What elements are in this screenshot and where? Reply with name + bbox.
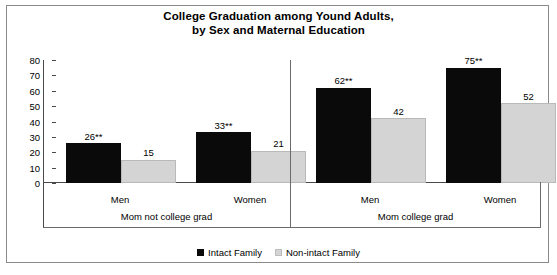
legend-item-non-intact-family[interactable]: Non-intact Family — [275, 247, 360, 258]
black-square-icon — [197, 249, 204, 256]
chart-title-line2: by Sex and Maternal Education — [0, 23, 557, 37]
bar-label-nonintact-women-mom-grad: 52 — [523, 91, 534, 102]
bar-nonintact-women-mom-grad[interactable] — [501, 103, 556, 183]
legend-label-non-intact-family: Non-intact Family — [286, 247, 360, 258]
plot-area: 26** 15 33** 21 62** 42 75** 52 — [44, 60, 541, 183]
bar-intact-men-mom-not-grad[interactable] — [66, 143, 121, 183]
y-tick-80: 80 — [12, 55, 40, 66]
category-label-men-mom-grad: Men — [361, 194, 379, 205]
bar-label-intact-men-mom-not-grad: 26** — [85, 131, 103, 142]
category-label-women-mom-not-grad: Women — [234, 194, 267, 205]
gray-square-icon — [275, 249, 282, 256]
y-tick-10: 10 — [12, 162, 40, 173]
xlabel-box-mom-college-grad: Men Women Mom college grad — [291, 182, 541, 228]
y-tick-60: 60 — [12, 85, 40, 96]
chart-screenshot: College Graduation among Yound Adults, b… — [0, 0, 557, 275]
xlabel-box-mom-not-college-grad: Men Women Mom not college grad — [43, 182, 291, 228]
bar-label-nonintact-women-mom-not-grad: 21 — [273, 138, 284, 149]
bar-label-intact-women-mom-grad: 75** — [465, 55, 483, 66]
y-tick-0: 0 — [12, 178, 40, 189]
category-label-men-mom-not-grad: Men — [111, 194, 129, 205]
y-tick-30: 30 — [12, 131, 40, 142]
chart-title-line1: College Graduation among Yound Adults, — [163, 10, 393, 22]
bar-nonintact-men-mom-not-grad[interactable] — [121, 160, 176, 183]
bar-intact-women-mom-grad[interactable] — [446, 68, 501, 183]
bar-nonintact-men-mom-grad[interactable] — [371, 118, 426, 183]
bar-label-intact-women-mom-not-grad: 33** — [215, 120, 233, 131]
chart-title: College Graduation among Yound Adults, b… — [0, 9, 557, 37]
bar-nonintact-women-mom-not-grad[interactable] — [251, 151, 306, 183]
group-label-mom-college-grad: Mom college grad — [291, 211, 540, 222]
bar-label-intact-men-mom-grad: 62** — [335, 75, 353, 86]
chart-legend: Intact Family Non-intact Family — [0, 247, 557, 258]
legend-item-intact-family[interactable]: Intact Family — [197, 247, 262, 258]
y-tick-50: 50 — [12, 101, 40, 112]
legend-label-intact-family: Intact Family — [208, 247, 262, 258]
y-tick-20: 20 — [12, 147, 40, 158]
y-tick-70: 70 — [12, 70, 40, 81]
bar-label-nonintact-men-mom-grad: 42 — [393, 106, 404, 117]
group-label-mom-not-college-grad: Mom not college grad — [43, 211, 290, 222]
bar-label-nonintact-men-mom-not-grad: 15 — [143, 147, 154, 158]
bar-intact-men-mom-grad[interactable] — [316, 88, 371, 183]
bar-intact-women-mom-not-grad[interactable] — [196, 132, 251, 183]
y-axis-tick-labels: 80 70 60 50 40 30 20 10 0 — [8, 60, 40, 183]
y-tick-40: 40 — [12, 116, 40, 127]
category-label-women-mom-grad: Women — [484, 194, 517, 205]
